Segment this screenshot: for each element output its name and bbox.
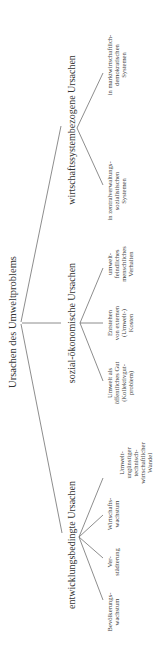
leaf-line: wirtschaftlicher [139,442,146,484]
leaf-line: Wandel [146,453,153,473]
leaf-line: in marktwirtschaftlich- [106,35,113,96]
leaf-verhalten: umwelt- feindliches menschliches Verhalt… [106,246,134,282]
edge-root-entwicklung [21,324,62,533]
leaf-line: Umwelt als [106,367,113,398]
edge-root-wirtschaft [21,126,61,322]
leaf-verstaedterung: Ver- städterung [106,548,120,576]
leaf-line: demokratischen [113,43,120,85]
edge-wirtschaft-zentral [77,128,103,185]
branch-wirtschaftssystem: wirtschaftssystembezogene Ursachen [66,55,77,205]
leaf-line: feindliches [113,249,120,278]
leaf-line: Entstehen [106,309,113,336]
leaf-line: in zentralverwaltungs- [106,161,113,220]
edge-wirtschaft-markt [77,73,103,128]
leaf-line: wachstum [113,598,120,626]
edge-entw-bevoelkerung [79,537,103,600]
leaf-zentralverwaltung: in zentralverwaltungs- sozialistischen S… [106,161,127,220]
leaf-line: sozialistischen [113,171,120,210]
leaf-bevoelkerungswachstum: Bevölkerungs- wachstum [106,593,120,632]
branch-entwicklungsbedingt: entwicklungsbedingte Ursachen [66,481,77,609]
leaf-line: wachstum [113,500,120,528]
leaf-line: Umwelt- [118,451,125,474]
edge-entw-wandel [79,478,103,537]
leaf-line: Bevölkerungs- [106,593,113,632]
leaf-line: ungünstiger [125,447,132,479]
leaf-externe-kosten: Entstehen von externen (Umwelt-) Kosten [106,305,134,340]
leaf-line: städterung [113,548,120,576]
leaf-line: Systemen [120,177,127,203]
leaf-line: Verhalten [127,251,134,277]
connectors [21,73,103,600]
edge-entw-wirtschaftswachstum [79,515,103,537]
leaf-wirtschaftswachstum: Wirtschafts- wachstum [106,498,120,530]
root-node: Ursachen des Umweltproblems [7,256,18,388]
edge-sozial-kollektiv [80,323,103,381]
edge-sozial-verhalten [80,268,103,323]
leaf-line: Wirtschafts- [106,498,113,530]
leaf-line: Ver- [106,556,113,567]
leaf-marktwirtschaft: in marktwirtschaftlich- demokratischen S… [106,35,127,96]
leaf-line: problem) [127,371,135,395]
leaf-kollektivgut: Umwelt als öffentliches Gut (Kollektivgu… [106,362,135,405]
branch-sozial-oekonomisch: sozial-ökonomische Ursachen [66,263,77,383]
leaf-line: von externen [113,305,120,340]
cause-tree-diagram: Ursachen des Umweltproblems wirtschaftss… [0,0,163,661]
leaf-line: umwelt- [106,253,113,275]
leaf-line: Kosten [127,313,134,332]
leaf-line: technisch- [132,449,139,476]
leaf-line: öffentliches Gut [113,362,120,405]
leaf-line: Systemen [120,51,127,77]
leaf-technischer-wandel: Umwelt- ungünstiger technisch- wirtschaf… [118,442,153,484]
leaf-line: menschliches [120,246,127,282]
